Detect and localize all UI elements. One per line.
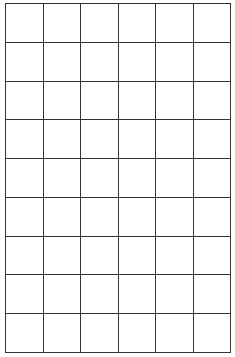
grid-cell xyxy=(6,159,44,198)
grid-cell xyxy=(119,198,157,237)
grid-cell xyxy=(156,314,194,353)
grid-cell xyxy=(194,43,232,82)
grid-cell xyxy=(119,4,157,43)
grid-cell xyxy=(81,43,119,82)
empty-grid xyxy=(5,3,231,353)
grid-cell xyxy=(194,4,232,43)
grid-cell xyxy=(44,237,82,276)
grid-cell xyxy=(44,159,82,198)
grid-cell xyxy=(44,198,82,237)
grid-cell xyxy=(6,120,44,159)
grid-cell xyxy=(44,43,82,82)
grid-cell xyxy=(81,82,119,121)
grid-cell xyxy=(119,43,157,82)
grid-cell xyxy=(156,4,194,43)
grid-cell xyxy=(119,275,157,314)
grid-cell xyxy=(44,120,82,159)
grid-cell xyxy=(81,314,119,353)
grid-cell xyxy=(81,237,119,276)
grid-cell xyxy=(81,120,119,159)
grid-cell xyxy=(6,198,44,237)
grid-cell xyxy=(194,159,232,198)
grid-cell xyxy=(194,275,232,314)
grid-cell xyxy=(119,159,157,198)
grid-cell xyxy=(6,237,44,276)
grid-cell xyxy=(156,43,194,82)
grid-cell xyxy=(6,43,44,82)
grid-cell xyxy=(44,275,82,314)
grid-cell xyxy=(6,314,44,353)
grid-cell xyxy=(44,314,82,353)
grid-cell xyxy=(194,120,232,159)
grid-cell xyxy=(156,237,194,276)
grid-cell xyxy=(156,275,194,314)
grid-cell xyxy=(81,275,119,314)
grid-cell xyxy=(6,82,44,121)
grid-cell xyxy=(44,4,82,43)
grid-cell xyxy=(156,159,194,198)
grid-cell xyxy=(194,237,232,276)
grid-cell xyxy=(81,159,119,198)
grid-cell xyxy=(194,198,232,237)
grid-cell xyxy=(119,120,157,159)
grid-cell xyxy=(156,82,194,121)
grid-cell xyxy=(156,198,194,237)
grid-cell xyxy=(6,275,44,314)
grid-cell xyxy=(6,4,44,43)
grid-cell xyxy=(156,120,194,159)
grid-cell xyxy=(44,82,82,121)
grid-cell xyxy=(119,314,157,353)
grid-cell xyxy=(119,237,157,276)
grid-cell xyxy=(119,82,157,121)
grid-cell xyxy=(81,198,119,237)
grid-cell xyxy=(194,314,232,353)
grid-cell xyxy=(81,4,119,43)
grid-cell xyxy=(194,82,232,121)
